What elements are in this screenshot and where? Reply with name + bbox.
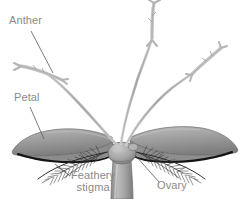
petal-left: [12, 129, 114, 162]
label-anther: Anther: [9, 15, 42, 27]
label-ovary-text: Ovary: [157, 179, 187, 191]
label-feathery-stigma: Feathery stigma: [71, 170, 115, 193]
anther-center: [147, 0, 160, 46]
label-ovary: Ovary: [157, 180, 187, 192]
label-feathery-stigma-line1: Feathery: [71, 170, 115, 182]
anther-right: [186, 42, 227, 81]
ovary: [108, 142, 138, 164]
label-petal: Petal: [14, 92, 40, 104]
label-feathery-stigma-line2: stigma: [71, 182, 115, 194]
label-petal-text: Petal: [14, 91, 40, 103]
petal-right: [129, 127, 238, 162]
botanical-diagram-figure: Anther Petal Feathery stigma Ovary: [0, 0, 244, 199]
anther-left: [14, 63, 68, 84]
label-anther-text: Anther: [9, 14, 42, 26]
